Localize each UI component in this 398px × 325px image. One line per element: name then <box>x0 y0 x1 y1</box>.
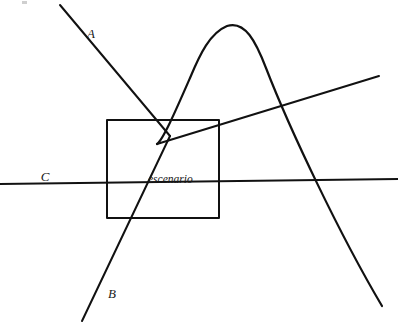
line-b <box>82 136 170 321</box>
line-c <box>0 179 398 184</box>
label-line-a: A <box>86 26 95 41</box>
diagram-svg: A B C escenario <box>0 0 398 325</box>
parabolic-curve <box>157 25 382 306</box>
scan-speck <box>22 1 27 4</box>
label-escenario: escenario <box>148 173 193 185</box>
rising-line <box>157 76 379 144</box>
label-line-b: B <box>108 286 116 301</box>
figure-canvas: A B C escenario <box>0 0 398 325</box>
line-a <box>60 5 170 136</box>
label-line-c: C <box>41 169 50 184</box>
